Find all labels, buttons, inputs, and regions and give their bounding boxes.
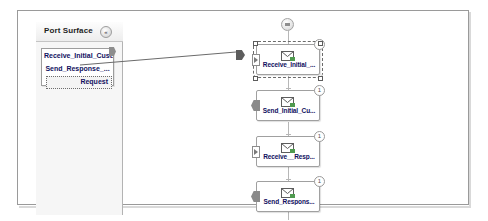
port-operation-label: Send_Response_... [42,63,113,74]
port-type-label: Receive_Initial_Cust... [42,50,113,61]
flow-tick [286,134,291,135]
begin-shape-icon[interactable] [281,18,294,31]
connector-handle-icon[interactable] [109,47,116,56]
shape-label: Receive_Initial_... [257,61,321,68]
selection-handle[interactable] [253,41,258,46]
flow-line-segment [288,212,289,220]
orchestration-shape-send-response[interactable]: Send_Respons... 1 [256,181,320,212]
shape-badge[interactable]: 1 [314,85,325,96]
shape-badge[interactable]: 1 [314,131,325,142]
send-envelope-icon [281,185,296,196]
flow-line-segment [288,31,289,45]
chevron-double-left-icon[interactable]: « [100,26,112,38]
shape-badge[interactable]: 1 [314,176,325,187]
port-message-item[interactable]: Request [46,76,112,89]
port-box[interactable]: Receive_Initial_Cust... Send_Response_..… [41,48,114,86]
selection-handle[interactable] [253,76,258,81]
orchestration-shape-receive-initial[interactable]: Receive_Initial_... 1 [256,44,320,75]
send-envelope-icon [281,94,296,105]
shape-label: Send_Initial_Cu... [257,107,321,114]
receive-envelope-icon [281,140,296,151]
port-surface-panel: Port Surface « Receive_Initial_Cust... S… [36,22,123,215]
design-canvas[interactable]: Port Surface « Receive_Initial_Cust... S… [17,10,469,205]
shape-label: Send_Respons... [257,198,321,205]
shape-label: Receive__Resp... [257,153,321,160]
port-surface-title: Port Surface [44,26,93,35]
flow-tick [286,88,291,89]
flow-tick [286,179,291,180]
orchestration-shape-send-initial[interactable]: Send_Initial_Cu... 1 [256,90,320,121]
selection-handle[interactable] [318,41,323,46]
selection-handle[interactable] [318,76,323,81]
receive-envelope-icon [281,48,296,59]
orchestration-designer: Port Surface « Receive_Initial_Cust... S… [0,0,488,221]
canvas-shadow-right [469,12,471,208]
orchestration-shape-receive-response[interactable]: Receive__Resp... 1 [256,136,320,167]
